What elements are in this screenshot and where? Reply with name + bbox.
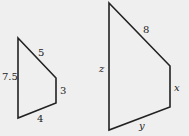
large-quadrilateral — [109, 3, 170, 130]
small-bottom-label: 4 — [37, 113, 43, 124]
small-left-label: 7.5 — [2, 71, 18, 82]
large-left-label: z — [98, 63, 105, 74]
large-top-label: 8 — [143, 24, 149, 35]
small-right-label: 3 — [60, 85, 66, 96]
diagram-canvas: 7.5 5 3 4 z 8 x y — [0, 0, 189, 136]
large-right-label: x — [174, 82, 180, 93]
small-quadrilateral — [18, 38, 56, 118]
large-bottom-label: y — [138, 120, 145, 131]
small-top-label: 5 — [38, 47, 44, 58]
